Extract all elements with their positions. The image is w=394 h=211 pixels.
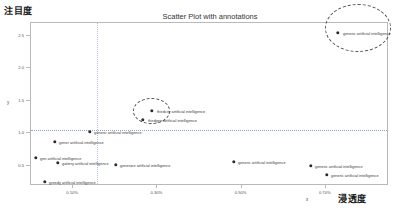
- y-tick-mark: [26, 165, 30, 166]
- x-tick-mark: [156, 184, 157, 188]
- y-tick-label: 0.5: [18, 162, 24, 167]
- x-axis-label: x: [306, 197, 308, 202]
- y-tick-mark: [26, 132, 30, 133]
- y-tick-label: 2.0: [18, 65, 24, 70]
- x-tick-label: 0.30%: [150, 190, 162, 195]
- right-spine: [387, 22, 388, 184]
- data-point-label: gener artificial intelligence: [59, 140, 104, 145]
- y-tick-mark: [26, 100, 30, 101]
- horizontal-reference-line: [31, 130, 387, 131]
- x-tick-mark: [241, 184, 242, 188]
- data-point-label: greedy artificial intelligence: [49, 180, 96, 185]
- data-point-label: generare artificial intelligence: [120, 163, 170, 168]
- y-tick-mark: [26, 67, 30, 68]
- data-point-label: generic artificial intelligence: [94, 130, 142, 135]
- scatter-plot-figure: 注目度 浸透度 Scatter Plot with annotations 0.…: [0, 0, 394, 211]
- x-tick-mark: [72, 184, 73, 188]
- annotation-ellipse-middle: [133, 98, 170, 124]
- y-axis-caption: 注目度: [4, 4, 33, 17]
- x-tick-label: 0.50%: [235, 190, 247, 195]
- data-point-label: generic artificial intelligence: [331, 173, 379, 178]
- y-tick-mark: [26, 35, 30, 36]
- annotation-ellipse-top-right: [325, 4, 391, 52]
- y-tick-label: 2.5: [18, 32, 24, 37]
- x-tick-mark: [325, 184, 326, 188]
- y-tick-label: 1.5: [18, 97, 24, 102]
- y-tick-label: 1.0: [18, 130, 24, 135]
- x-tick-label: 0.70%: [319, 190, 331, 195]
- x-axis-caption: 浸透度: [338, 192, 367, 205]
- y-axis-label: y: [7, 100, 9, 105]
- x-tick-label: 0.10%: [66, 190, 78, 195]
- data-point-label: generic artificial intelligence: [238, 160, 286, 165]
- data-point-label: generic artificial intelligence: [315, 164, 363, 169]
- data-point-label: gattery artificial intelligence: [62, 161, 109, 166]
